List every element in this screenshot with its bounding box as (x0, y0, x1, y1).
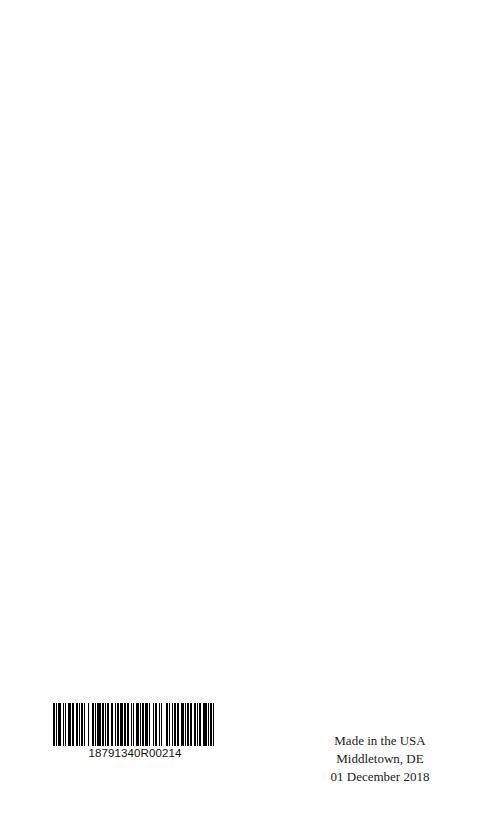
barcode-number: 18791340R00214 (53, 747, 217, 759)
printer-imprint: Made in the USA Middletown, DE 01 Decemb… (300, 732, 460, 786)
barcode-block: 18791340R00214 (53, 703, 217, 759)
barcode-space (214, 703, 216, 746)
imprint-date: 01 December 2018 (300, 768, 460, 786)
barcode-image (53, 703, 217, 746)
imprint-location: Middletown, DE (300, 750, 460, 768)
book-back-page: 18791340R00214 Made in the USA Middletow… (0, 0, 488, 818)
imprint-origin: Made in the USA (300, 732, 460, 750)
